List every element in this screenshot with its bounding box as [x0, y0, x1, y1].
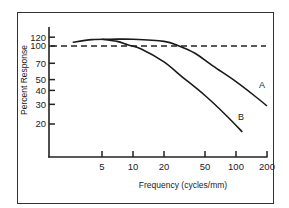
x-tick-label: 100: [228, 161, 244, 172]
x-tick-label: 200: [259, 161, 275, 172]
mtf-chart: 2030405070100120 5102050100200 AB Percen…: [0, 0, 289, 208]
x-axis-title: Frequency (cycles/mm): [139, 180, 227, 190]
y-tick-label: 30: [35, 99, 46, 110]
y-tick-label: 40: [35, 85, 46, 96]
x-tick-label: 20: [159, 161, 170, 172]
x-tick-label: 10: [128, 161, 139, 172]
chart-frame: [18, 13, 274, 204]
y-tick-label: 50: [35, 74, 46, 85]
x-tick-label: 5: [99, 161, 104, 172]
curve-label-b: B: [238, 112, 244, 122]
y-tick-label: 70: [35, 58, 46, 69]
y-tick-label: 20: [35, 118, 46, 129]
y-tick-label: 120: [30, 32, 46, 43]
y-axis-title: Percent Response: [19, 45, 29, 115]
curve-label-a: A: [259, 80, 265, 90]
x-tick-label: 50: [200, 161, 211, 172]
